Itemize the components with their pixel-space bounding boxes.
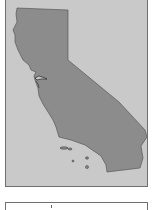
california-shape (13, 8, 147, 172)
channel-island (86, 166, 89, 169)
channel-island (68, 148, 72, 150)
california-map[interactable] (6, 0, 149, 187)
channel-island (60, 147, 68, 149)
legend-tick (51, 205, 52, 208)
channel-island (72, 160, 74, 162)
map-frame (5, 0, 148, 187)
channel-island (86, 157, 89, 159)
legend-panel (5, 202, 148, 210)
